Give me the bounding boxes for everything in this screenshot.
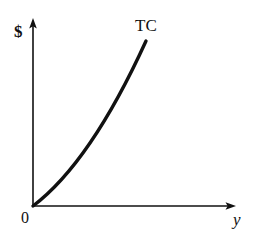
total-cost-curve-label: TC bbox=[135, 17, 157, 34]
cost-curve-figure: $ 0 y TC bbox=[0, 0, 259, 235]
y-axis-label: $ bbox=[14, 23, 23, 40]
plot-area bbox=[0, 0, 259, 235]
x-axis-label: y bbox=[233, 211, 241, 228]
total-cost-curve bbox=[33, 41, 146, 206]
origin-label: 0 bbox=[21, 210, 29, 226]
